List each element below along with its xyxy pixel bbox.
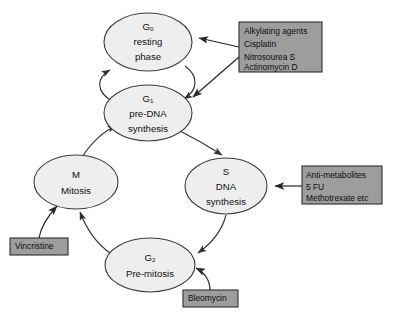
arrow-m-to-g1 [82, 126, 116, 157]
g1-label-line3: synthesis [128, 123, 168, 134]
anti-metabolites-line-3: Methotrexate etc [306, 193, 368, 203]
anti-metabolites-line-1: Anti-metabolites [306, 170, 366, 180]
node-g2-pre-mitosis[interactable]: G2 Pre-mitosis [105, 238, 195, 292]
g2-label-line2: Pre-mitosis [126, 268, 174, 279]
m-ellipse[interactable] [34, 155, 118, 209]
m-label-line2: Mitosis [61, 185, 91, 196]
s-label-line1: S [223, 166, 229, 177]
m-label-line1: M [72, 169, 80, 180]
anti-metabolites-box[interactable]: Anti-metabolites 5 FU Methotrexate etc [302, 166, 382, 204]
arrow-alkylating-to-g1 [193, 57, 239, 97]
arrow-vincristine-to-m [39, 206, 57, 238]
s-label-line2: DNA [216, 181, 237, 192]
arrow-bleomycin-to-g2 [196, 268, 210, 290]
g0-label-line2: resting [134, 36, 163, 47]
node-s-dna-synthesis[interactable]: S DNA synthesis [185, 158, 267, 214]
vincristine-box[interactable]: Vincristine [10, 238, 68, 255]
alkylating-agents-line-1: Alkylating agents [244, 26, 307, 36]
g2-ellipse[interactable] [105, 238, 195, 292]
node-g0-resting-phase[interactable]: G0 resting phase [104, 13, 192, 71]
diagram-canvas: G0 resting phase G1 pre-DNA synthesis M … [0, 0, 395, 317]
bleomycin-label: Bleomycin [188, 293, 227, 303]
node-m-mitosis[interactable]: M Mitosis [34, 155, 118, 209]
cell-cycle-diagram: G0 resting phase G1 pre-DNA synthesis M … [0, 0, 395, 317]
arrow-g2-to-m [80, 212, 110, 253]
arrow-alkylating-to-g0 [199, 38, 239, 47]
bleomycin-box[interactable]: Bleomycin [183, 290, 238, 307]
node-g1-pre-dna-synthesis[interactable]: G1 pre-DNA synthesis [104, 85, 192, 141]
alkylating-agents-box[interactable]: Alkylating agents Cisplatin Nitrosourea … [239, 22, 322, 72]
anti-metabolites-line-2: 5 FU [306, 182, 324, 192]
vincristine-label: Vincristine [15, 241, 54, 251]
arrow-g1-to-g0 [100, 70, 112, 101]
g0-label-line3: phase [135, 51, 161, 62]
alkylating-agents-line-2: Cisplatin [244, 39, 276, 49]
g1-label-line2: pre-DNA [129, 108, 167, 119]
alkylating-agents-line-4: Actinomycin D [244, 62, 298, 72]
alkylating-agents-line-3: Nitrosourea S [244, 52, 296, 62]
arrow-s-to-g2 [198, 215, 226, 253]
arrow-g1-to-s [180, 131, 222, 155]
arrow-g0-to-g1 [184, 66, 195, 99]
s-label-line3: synthesis [206, 196, 246, 207]
